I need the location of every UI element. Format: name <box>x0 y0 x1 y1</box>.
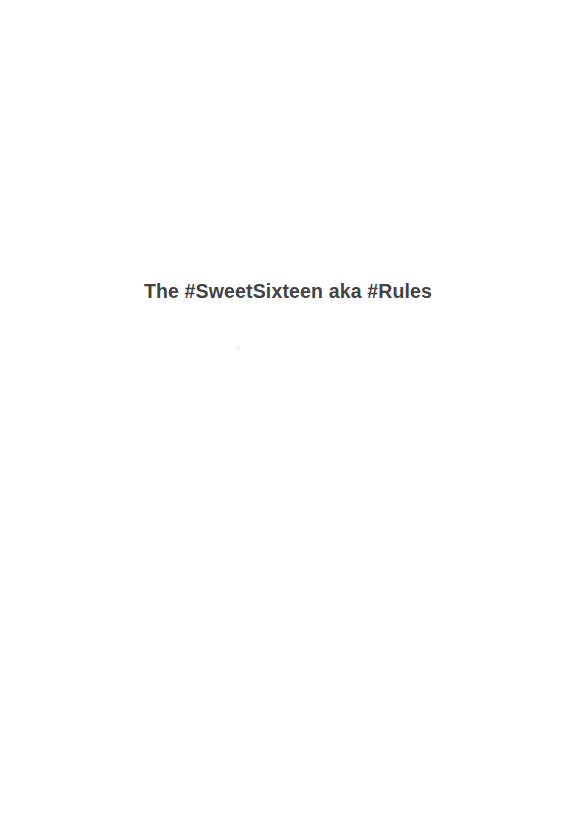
page-title: The #SweetSixteen aka #Rules <box>144 279 432 303</box>
blank-area-below-heading <box>0 310 565 832</box>
page-title-block: The #SweetSixteen aka #Rules <box>0 279 565 303</box>
scanned-page: The #SweetSixteen aka #Rules <box>0 0 565 832</box>
blank-area-above-heading <box>0 0 565 279</box>
